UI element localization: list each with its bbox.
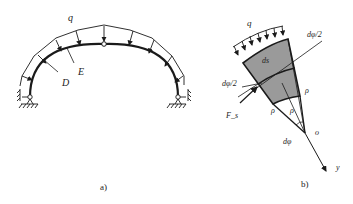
force-label-Fs: F_s — [225, 111, 238, 120]
angle-label-dphi: dφ — [283, 137, 292, 146]
figure-b-element: q ds dφ/2 dφ/2 ρ ρ ρ dφ o y F_s b) — [222, 18, 340, 189]
right-support-icon — [167, 89, 191, 108]
axis-label-y: y — [335, 163, 340, 172]
crown-hinge-icon — [102, 42, 107, 47]
half-angle-left-label: dφ/2 — [222, 79, 237, 88]
point-label-E: E — [77, 66, 84, 77]
point-label-D: D — [61, 77, 70, 88]
figure-a-arch: q D E a) — [17, 12, 191, 192]
arch-curve — [30, 44, 178, 97]
caption-b: b) — [301, 179, 309, 189]
radius-mid-label: ρ — [270, 106, 275, 115]
radius-right-label: ρ — [304, 86, 309, 95]
diagram-canvas: q D E a) — [0, 0, 353, 204]
load-label-q-b: q — [247, 18, 252, 28]
section-E-line — [67, 48, 74, 63]
element-label-ds: ds — [262, 56, 269, 65]
force-arrow — [240, 87, 257, 103]
half-angle-top-label: dφ/2 — [307, 30, 322, 39]
section-D-line — [44, 60, 58, 72]
y-axis-arrow — [305, 133, 326, 171]
load-envelope — [22, 25, 184, 85]
radius-left-label: ρ — [289, 106, 294, 115]
load-label-q: q — [68, 12, 73, 23]
center-label-o: o — [315, 128, 319, 137]
caption-a: a) — [100, 182, 107, 192]
element-shaded — [243, 39, 300, 104]
load-arrows — [22, 26, 183, 82]
left-support-icon — [17, 89, 38, 108]
